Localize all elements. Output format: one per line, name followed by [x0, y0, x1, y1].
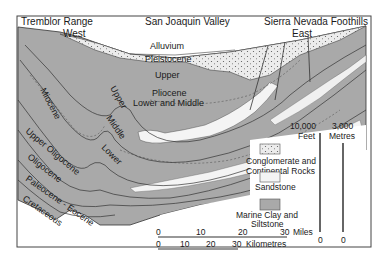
hscale-km-30: 30 — [232, 239, 242, 249]
label-pliocene-lower-middle: Lower and Middle — [133, 98, 204, 108]
vscale-feet-bottom: 0 — [318, 235, 323, 245]
legend-swatch-clay — [260, 199, 280, 210]
hscale-miles-30: 30 — [280, 227, 290, 237]
geologic-cross-section: Tremblor Range San Joaquin Valley Sierra… — [0, 0, 383, 267]
label-sierra-nevada-foothills: Sierra Nevada Foothills — [264, 16, 368, 27]
legend-conglomerate-line1: Conglomerate and — [246, 156, 316, 166]
label-pliocene: Pliocene — [152, 88, 187, 98]
legend-swatch-sandstone — [260, 172, 280, 182]
legend-swatch-conglomerate — [260, 144, 280, 154]
hscale-miles-0: 0 — [156, 227, 161, 237]
hscale-miles-unit: Miles — [293, 227, 313, 237]
legend-sandstone: Sandstone — [255, 182, 296, 192]
label-pleistocene: Pleistocene — [145, 54, 192, 64]
label-san-joaquin-valley: San Joaquin Valley — [145, 16, 230, 27]
hscale-km-20: 20 — [206, 239, 216, 249]
label-east: East — [292, 28, 312, 39]
hscale-miles-10: 10 — [196, 227, 206, 237]
label-west: West — [63, 28, 86, 39]
vscale-metres-unit: Metres — [329, 131, 355, 141]
legend-conglomerate-line2: Continental Rocks — [246, 166, 315, 176]
hscale-km-10: 10 — [180, 239, 190, 249]
hscale-miles-20: 20 — [238, 227, 248, 237]
vscale-feet-top: 10,000 — [290, 121, 316, 131]
label-tremblor-range: Tremblor Range — [21, 16, 93, 27]
vscale-metres-top: 3,000 — [332, 121, 354, 131]
label-upper-pliocene: Upper — [155, 70, 180, 80]
hscale-km-unit: Kilometres — [246, 239, 286, 249]
hscale-km-0: 0 — [156, 239, 161, 249]
vscale-feet-unit: Feet — [298, 131, 316, 141]
label-alluvium: Alluvium — [150, 41, 184, 51]
vscale-metres-bottom: 0 — [341, 235, 346, 245]
legend-clay-line2: Siltstone — [251, 219, 284, 229]
